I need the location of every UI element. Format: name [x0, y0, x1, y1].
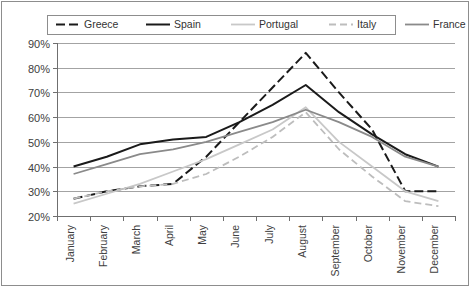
y-tick-label: 20%: [28, 211, 50, 223]
x-tick-label: September: [329, 225, 341, 277]
legend-label-greece[interactable]: Greece: [84, 18, 119, 30]
chart-legend[interactable]: GreeceSpainPortugalItalyFrance: [48, 16, 466, 35]
y-tick-label: 70%: [28, 87, 50, 99]
chart-canvas: 20%30%40%50%60%70%80%90% JanuaryFebruary…: [0, 0, 470, 287]
series-line-spain: [74, 85, 439, 167]
x-tick-label: June: [229, 225, 241, 248]
x-tick-label: February: [97, 224, 109, 267]
x-tick-label: November: [395, 224, 407, 273]
legend-label-spain[interactable]: Spain: [174, 18, 201, 30]
series-line-greece: [74, 53, 439, 199]
x-tick-label: January: [64, 224, 76, 262]
x-tick-label: July: [263, 224, 275, 243]
y-tick-label: 50%: [28, 137, 50, 149]
x-tick-label: April: [163, 225, 175, 246]
y-tick-label: 90%: [28, 38, 50, 50]
series-line-portugal: [74, 107, 439, 203]
x-tick-label: March: [130, 225, 142, 254]
line-chart: 20%30%40%50%60%70%80%90% JanuaryFebruary…: [0, 0, 470, 287]
y-tick-label: 80%: [28, 63, 50, 75]
x-axis: JanuaryFebruaryMarchAprilMayJuneJulyAugu…: [57, 216, 456, 276]
legend-label-italy[interactable]: Italy: [357, 18, 377, 30]
y-tick-label: 30%: [28, 186, 50, 198]
y-tick-label: 60%: [28, 112, 50, 124]
data-series-group: [74, 53, 439, 206]
x-tick-label: May: [196, 224, 208, 245]
x-tick-label: August: [296, 225, 308, 258]
x-tick-label: October: [362, 225, 374, 263]
x-tick-label: December: [428, 224, 440, 273]
y-axis: 20%30%40%50%60%70%80%90%: [28, 38, 58, 223]
y-tick-label: 40%: [28, 162, 50, 174]
legend-label-france[interactable]: France: [433, 18, 466, 30]
legend-label-portugal[interactable]: Portugal: [259, 18, 298, 30]
